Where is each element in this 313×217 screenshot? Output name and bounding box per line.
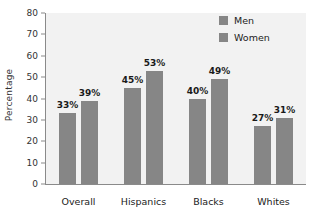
- x-axis-category-label: Blacks: [193, 196, 224, 207]
- x-axis-category-label: Hispanics: [121, 196, 166, 207]
- y-axis-title: Percentage: [0, 0, 18, 190]
- y-axis-tick-label: 80: [27, 8, 38, 18]
- legend-swatch-icon: [219, 16, 228, 25]
- y-axis-ticks: 80706050403020100: [18, 0, 45, 217]
- bar[interactable]: [59, 113, 76, 184]
- bar-value-label: 27%: [252, 113, 274, 123]
- x-axis-labels: OverallHispanicsBlacksWhites: [46, 188, 306, 208]
- bar[interactable]: [146, 71, 163, 184]
- bar-value-label: 49%: [209, 66, 231, 76]
- bar[interactable]: [211, 79, 228, 184]
- bar-value-label: 40%: [187, 86, 209, 96]
- x-axis-category-label: Whites: [257, 196, 290, 207]
- y-axis-tick-label: 70: [27, 29, 38, 39]
- x-axis-line: [45, 184, 306, 185]
- bar[interactable]: [276, 118, 293, 184]
- y-axis-tick-label: 10: [27, 158, 38, 168]
- y-axis-tick-label: 50: [27, 72, 38, 82]
- bar-value-label: 33%: [57, 100, 79, 110]
- legend-swatch-icon: [219, 33, 228, 42]
- y-axis-title-text: Percentage: [4, 69, 14, 122]
- y-axis-tick-label: 20: [27, 136, 38, 146]
- legend-item-women[interactable]: Women: [219, 30, 299, 45]
- y-axis-tick-label: 40: [27, 94, 38, 104]
- bar-value-label: 31%: [274, 105, 296, 115]
- y-axis-tick-label: 30: [27, 115, 38, 125]
- bar[interactable]: [189, 99, 206, 185]
- bar-chart: Percentage 80706050403020100 33%39%45%53…: [0, 0, 313, 217]
- bar[interactable]: [124, 88, 141, 184]
- x-axis-category-label: Overall: [62, 196, 96, 207]
- bar-value-label: 39%: [79, 88, 101, 98]
- bar-value-label: 53%: [144, 58, 166, 68]
- y-axis-tick-label: 60: [27, 51, 38, 61]
- y-axis-tick-label: 0: [32, 179, 38, 189]
- legend: Men Women: [219, 13, 299, 47]
- legend-label: Men: [234, 15, 254, 26]
- legend-label: Women: [234, 32, 270, 43]
- bar[interactable]: [254, 126, 271, 184]
- legend-item-men[interactable]: Men: [219, 13, 299, 28]
- bar-value-label: 45%: [122, 75, 144, 85]
- bar[interactable]: [81, 101, 98, 184]
